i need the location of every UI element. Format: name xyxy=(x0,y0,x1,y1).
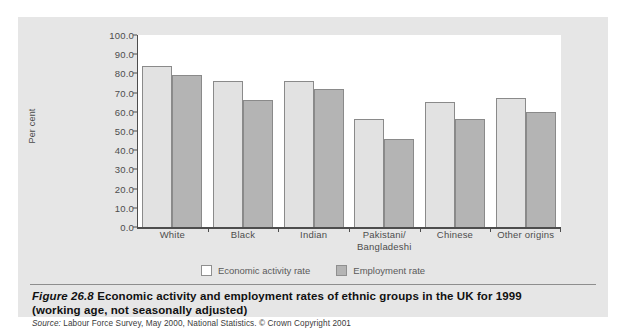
figure-caption: Figure 26.8 Economic activity and employ… xyxy=(32,289,598,328)
x-axis-separator-tick xyxy=(420,227,421,232)
bar-group xyxy=(490,35,561,227)
y-tick-label: 30.0 xyxy=(115,164,134,175)
x-axis-separator-tick xyxy=(278,227,279,232)
bar-employment xyxy=(384,139,414,227)
chart-region: Per cent 100.090.080.070.060.050.040.030… xyxy=(18,17,608,272)
bar-economic-activity xyxy=(284,81,314,227)
bar-group xyxy=(420,35,491,227)
x-category-label-line: Bangladeshi xyxy=(349,241,420,253)
x-category-label-line: Black xyxy=(208,229,279,241)
legend-item-economic-activity-rate: Economic activity rate xyxy=(201,265,310,276)
y-tick-label: 40.0 xyxy=(115,145,134,156)
figure-number: Figure 26.8 xyxy=(32,290,94,302)
y-tick-label: 50.0 xyxy=(115,126,134,137)
x-category-label: White xyxy=(137,229,208,241)
y-tick-label: 100.0 xyxy=(109,30,134,41)
y-tick-label: 0.0 xyxy=(120,222,134,233)
caption-title-line2: (working age, not seasonally adjusted) xyxy=(32,304,247,316)
x-axis-separator-tick xyxy=(490,227,491,232)
bar-group xyxy=(137,35,208,227)
chart-legend: Economic activity rate Employment rate xyxy=(18,265,608,276)
y-tick-label: 80.0 xyxy=(115,68,134,79)
x-category-label-line: White xyxy=(137,229,208,241)
figure-panel: Per cent 100.090.080.070.060.050.040.030… xyxy=(18,17,608,317)
legend-swatch-icon-economic-activity xyxy=(201,265,212,276)
y-tick-label: 70.0 xyxy=(115,87,134,98)
bar-economic-activity xyxy=(354,119,384,227)
bar-groups xyxy=(137,35,561,227)
caption-divider xyxy=(30,284,596,285)
x-category-label-line: Chinese xyxy=(420,229,491,241)
x-category-label-line: Indian xyxy=(278,229,349,241)
caption-title-line1: Economic activity and employment rates o… xyxy=(97,290,522,302)
legend-label-economic-activity: Economic activity rate xyxy=(218,265,310,276)
x-category-label-line: Other origins xyxy=(490,229,561,241)
x-category-label: Black xyxy=(208,229,279,241)
x-category-label: Other origins xyxy=(490,229,561,241)
bar-employment xyxy=(526,112,556,227)
caption-source: Source: Labour Force Survey, May 2000, N… xyxy=(32,319,598,328)
x-category-label: Chinese xyxy=(420,229,491,241)
source-label: Source: xyxy=(32,319,61,328)
y-tick-label: 90.0 xyxy=(115,49,134,60)
x-axis-separator-tick xyxy=(208,227,209,232)
x-category-label: Indian xyxy=(278,229,349,241)
bar-economic-activity xyxy=(425,102,455,227)
source-text: Labour Force Survey, May 2000, National … xyxy=(63,319,351,328)
bar-economic-activity xyxy=(213,81,243,227)
bar-group xyxy=(349,35,420,227)
y-tick-label: 10.0 xyxy=(115,202,134,213)
bar-employment xyxy=(243,100,273,227)
plot-frame: 100.090.080.070.060.050.040.030.020.010.… xyxy=(137,35,561,227)
bar-economic-activity xyxy=(496,98,526,227)
legend-label-employment: Employment rate xyxy=(353,265,425,276)
caption-title: Figure 26.8 Economic activity and employ… xyxy=(32,289,598,317)
bar-employment xyxy=(172,75,202,227)
legend-item-employment-rate: Employment rate xyxy=(336,265,425,276)
x-category-label-line: Pakistani/ xyxy=(349,229,420,241)
x-axis-separator-tick xyxy=(560,227,561,232)
bar-group xyxy=(278,35,349,227)
bar-economic-activity xyxy=(142,66,172,227)
bar-employment xyxy=(314,89,344,227)
x-axis-separator-tick xyxy=(349,227,350,232)
x-category-label: Pakistani/Bangladeshi xyxy=(349,229,420,253)
y-tick-label: 60.0 xyxy=(115,106,134,117)
y-tick-label: 20.0 xyxy=(115,183,134,194)
bar-employment xyxy=(455,119,485,227)
legend-swatch-icon-employment xyxy=(336,265,347,276)
y-axis-title: Per cent xyxy=(27,91,37,161)
x-axis-category-labels: WhiteBlackIndianPakistani/BangladeshiChi… xyxy=(137,229,561,269)
bar-group xyxy=(208,35,279,227)
